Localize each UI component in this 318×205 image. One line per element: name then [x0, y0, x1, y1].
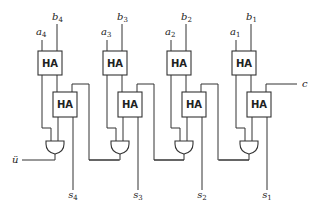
stage-4: a4 b4 HA HA s4 — [22, 11, 119, 202]
input-b-label: b4 — [52, 11, 63, 24]
input-a-label: a3 — [101, 26, 111, 39]
input-a-label: a1 — [230, 26, 240, 39]
or-gate — [46, 141, 64, 154]
svg-text:HA: HA — [42, 58, 58, 69]
input-b-label: b3 — [117, 11, 128, 24]
ripple-carry-adder-diagram: a4 b4 HA HA s4 ü a3 b3 HA — [0, 0, 318, 205]
svg-text:HA: HA — [122, 99, 138, 110]
svg-text:HA: HA — [107, 58, 123, 69]
input-a-label: a2 — [165, 26, 175, 39]
input-b-label: b1 — [246, 11, 257, 24]
sum-output-label: s3 — [133, 189, 143, 202]
sum-output-label: s4 — [68, 189, 78, 202]
input-b-label: b2 — [181, 11, 192, 24]
carry-in-label: c — [302, 78, 308, 89]
svg-text:HA: HA — [186, 99, 202, 110]
stage-1: a1 b1 HA HA s1 — [219, 11, 297, 202]
svg-text:HA: HA — [57, 99, 73, 110]
stage-3: a3 b3 HA HA s3 — [89, 11, 184, 202]
svg-text:HA: HA — [171, 58, 187, 69]
or-gate — [240, 141, 258, 154]
carry-out-label: ü — [12, 154, 18, 165]
or-gate — [175, 141, 193, 154]
or-gate — [111, 141, 129, 154]
svg-text:HA: HA — [251, 99, 267, 110]
sum-output-label: s1 — [262, 189, 272, 202]
svg-text:HA: HA — [236, 58, 252, 69]
sum-output-label: s2 — [197, 189, 207, 202]
stage-2: a2 b2 HA HA s2 — [154, 11, 249, 202]
input-a-label: a4 — [36, 26, 47, 39]
